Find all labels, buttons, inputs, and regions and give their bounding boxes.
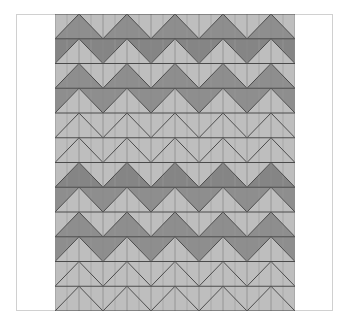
chevron-quilt [55,14,295,311]
